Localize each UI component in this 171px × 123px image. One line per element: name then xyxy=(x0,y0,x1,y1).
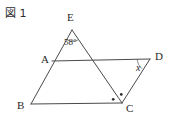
angle-label-x: x xyxy=(136,63,140,72)
figure-canvas xyxy=(0,0,171,123)
segment-B-C xyxy=(31,103,122,104)
vertex-label-B: B xyxy=(17,100,24,111)
angle-dot-E-C-D xyxy=(120,93,123,96)
angle-label-58-degrees: 58° xyxy=(64,38,77,47)
segment-E-C xyxy=(72,30,122,103)
geometry-figure: 図 1 E A D B C 58° x xyxy=(0,0,171,123)
vertex-label-D: D xyxy=(155,51,163,62)
vertex-label-E: E xyxy=(67,12,74,23)
vertex-label-A: A xyxy=(41,54,49,65)
segment-A-D xyxy=(52,59,150,61)
angle-dot-B-C-E xyxy=(112,98,115,101)
vertex-label-C: C xyxy=(126,103,133,114)
